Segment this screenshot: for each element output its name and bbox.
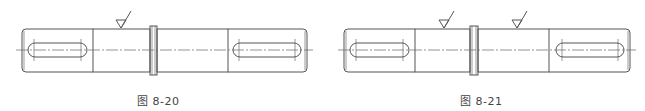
figure-8-20: 图 8-20 [0,0,320,111]
shaft-middle-left [415,29,470,72]
roughness-symbol-left [439,11,454,28]
shaft-left-end [344,29,415,72]
roughness-symbol-right [512,11,527,28]
figure-8-21: 图 8-21 [321,0,645,111]
shaft-middle-right [478,29,549,72]
figure-caption: 图 8-21 [460,92,502,108]
figure-caption: 图 8-20 [137,92,179,108]
shaft-collar [470,26,478,75]
shaft-collar [150,26,157,75]
shaft-left-end [22,29,93,72]
shaft-middle-left [93,29,150,72]
shaft-middle-right [157,29,228,72]
roughness-symbol [116,11,131,28]
